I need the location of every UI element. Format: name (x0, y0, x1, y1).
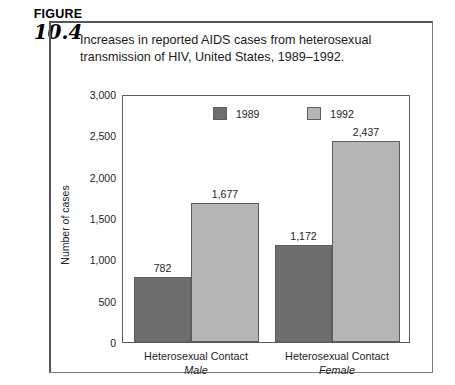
y-axis-tick-label: 1,000 (46, 254, 116, 266)
x-axis-category-label: Heterosexual Contact (285, 349, 389, 363)
bar-value-label: 1,172 (290, 230, 316, 242)
bar-value-label: 782 (154, 262, 172, 274)
bar-value-label: 1,677 (212, 188, 238, 200)
legend-item-1989: 1989 (213, 107, 259, 120)
x-axis-category-sublabel: Female (285, 363, 389, 377)
bar-1992-group-2 (332, 141, 400, 342)
y-axis-tick-label: 0 (46, 337, 116, 349)
bar-1992-group-1 (191, 203, 259, 342)
legend-swatch-1992 (307, 107, 321, 120)
bar-1989-group-2 (275, 245, 332, 342)
chart-legend: 1989 1992 (213, 107, 354, 120)
y-axis-tick-label: 3,000 (46, 89, 116, 101)
y-axis-tick-label: 500 (46, 296, 116, 308)
x-axis-category-2: Heterosexual ContactFemale (285, 349, 389, 377)
legend-label-1992: 1992 (330, 108, 353, 120)
bar-value-label: 2,437 (353, 126, 379, 138)
x-axis-category-sublabel: Male (144, 363, 248, 377)
x-axis-category-1: Heterosexual ContactMale (144, 349, 248, 377)
legend-item-1992: 1992 (307, 107, 353, 120)
legend-label-1989: 1989 (236, 108, 259, 120)
y-axis-tick-label: 2,500 (46, 130, 116, 142)
bar-chart: Number of cases 05001,0001,5002,0002,500… (0, 0, 455, 385)
y-axis-tick-label: 1,500 (46, 213, 116, 225)
y-axis-tick-label: 2,000 (46, 172, 116, 184)
x-axis-category-label: Heterosexual Contact (144, 349, 248, 363)
plot-area: 7821,6771,1722,437 (122, 95, 410, 343)
legend-swatch-1989 (213, 107, 227, 120)
bar-1989-group-1 (134, 277, 191, 342)
